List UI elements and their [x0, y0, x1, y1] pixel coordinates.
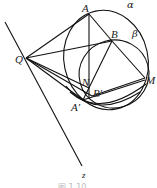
- geometry-figure: A B M Q N B′ A′ α β z 图 1.10: [0, 0, 157, 188]
- label-A: A: [81, 2, 89, 14]
- label-M: M: [145, 74, 156, 86]
- label-z: z: [81, 170, 86, 180]
- figure-caption: 图 1.10: [58, 183, 86, 188]
- segment-AB: [89, 14, 112, 41]
- label-Ap: A′: [70, 101, 81, 113]
- label-Bp: B′: [93, 87, 103, 99]
- circle-alpha: [55, 2, 157, 117]
- label-beta: β: [131, 28, 138, 39]
- label-N: N: [81, 76, 90, 88]
- segment-BM: [112, 41, 145, 78]
- segment-QAp: [26, 58, 83, 100]
- label-alpha: α: [127, 0, 134, 10]
- label-B: B: [111, 28, 118, 40]
- label-Q: Q: [15, 53, 23, 65]
- line-z: [5, 22, 82, 166]
